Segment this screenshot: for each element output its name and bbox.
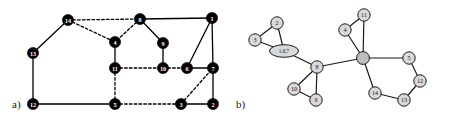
node-b-n13[interactable]: 13 xyxy=(398,94,410,106)
node-a-14[interactable]: 14 xyxy=(62,14,73,25)
node-label: 10 xyxy=(160,65,166,72)
node-label: 13 xyxy=(401,97,407,103)
node-a-1[interactable]: 1 xyxy=(206,12,217,23)
node-b-n4[interactable]: 4 xyxy=(339,24,351,36)
node-label: 13 xyxy=(30,50,36,57)
graph-figure-svg: 1481134911106712532 231,6,78109411512131… xyxy=(0,0,451,125)
node-label: 4 xyxy=(113,39,116,46)
node-label: 12 xyxy=(417,78,423,84)
node-label: 2 xyxy=(211,101,214,108)
panel-b-caption: b) xyxy=(236,98,246,111)
node-b-n3[interactable]: 3 xyxy=(249,34,261,46)
node-a-4[interactable]: 4 xyxy=(109,36,120,47)
node-label: 2 xyxy=(276,20,279,26)
node-b-n9[interactable]: 9 xyxy=(310,94,322,106)
node-a-12[interactable]: 12 xyxy=(27,98,38,109)
panel-a-caption: a) xyxy=(12,98,21,111)
node-label: 5 xyxy=(408,55,411,61)
node-a-3[interactable]: 3 xyxy=(175,98,186,109)
node-label: 1,6,7 xyxy=(279,48,290,54)
node-label: 8 xyxy=(138,16,141,23)
node-label: 5 xyxy=(113,101,116,108)
node-label: 1 xyxy=(210,15,213,22)
node-label: 3 xyxy=(254,37,257,43)
node-shape xyxy=(357,52,370,65)
node-label: 3 xyxy=(179,101,182,108)
node-b-n5[interactable]: 5 xyxy=(403,52,415,64)
node-a-2[interactable]: 2 xyxy=(207,98,218,109)
node-label: 12 xyxy=(30,101,36,108)
node-b-n14[interactable]: 14 xyxy=(369,87,381,99)
node-b-n10[interactable]: 10 xyxy=(288,83,300,95)
node-label: 14 xyxy=(65,17,71,24)
node-label: 4 xyxy=(344,27,347,33)
node-a-10[interactable]: 10 xyxy=(157,62,168,73)
node-b-n167[interactable]: 1,6,7 xyxy=(270,45,299,58)
node-label: 9 xyxy=(161,40,164,47)
node-a-5[interactable]: 5 xyxy=(109,98,120,109)
node-label: 8 xyxy=(316,64,319,70)
node-b-n2[interactable]: 2 xyxy=(271,17,283,29)
node-a-11[interactable]: 11 xyxy=(109,62,120,73)
node-a-9[interactable]: 9 xyxy=(157,37,168,48)
node-label: 11 xyxy=(112,65,118,72)
node-b-hub[interactable] xyxy=(357,52,370,65)
node-label: 10 xyxy=(291,86,297,92)
node-label: 14 xyxy=(372,90,378,96)
node-label: 6 xyxy=(185,65,188,72)
node-a-13[interactable]: 13 xyxy=(27,47,38,58)
node-a-8[interactable]: 8 xyxy=(134,13,145,24)
node-a-7[interactable]: 7 xyxy=(207,62,218,73)
node-label: 7 xyxy=(211,65,214,72)
figure-container: 1481134911106712532 231,6,78109411512131… xyxy=(0,0,451,125)
node-a-6[interactable]: 6 xyxy=(181,62,192,73)
node-b-n11[interactable]: 11 xyxy=(358,9,370,21)
node-label: 11 xyxy=(361,12,367,18)
node-b-n8[interactable]: 8 xyxy=(311,61,323,73)
node-label: 9 xyxy=(315,97,318,103)
node-b-n12[interactable]: 12 xyxy=(414,75,426,87)
